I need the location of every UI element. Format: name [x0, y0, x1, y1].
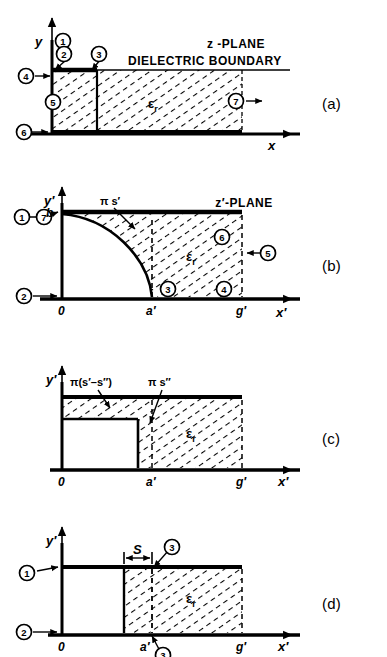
panel-letter-a: (a)	[322, 95, 341, 112]
segment-number-3-top: 3	[165, 540, 180, 555]
panel-d-drawing: 1 2 3 3 y′ x′ 0 a′ g′ S εr	[0, 495, 387, 657]
svg-text:3: 3	[160, 650, 165, 657]
label-right: π s″	[148, 376, 172, 388]
segment-number-3-bottom: 3	[156, 648, 171, 657]
segment-number-5: 5	[261, 246, 276, 261]
tick-origin: 0	[58, 304, 65, 318]
segment-number-2: 2	[17, 625, 32, 640]
svg-text:2: 2	[21, 627, 26, 638]
svg-text:5: 5	[265, 248, 271, 259]
segment-number-1: 1	[20, 566, 35, 581]
panel-letter-c: (c)	[322, 430, 340, 447]
tick-a: a′	[146, 304, 157, 318]
svg-text:1: 1	[60, 36, 66, 47]
segment-number-5: 5	[46, 95, 61, 110]
y-axis-label: y	[34, 34, 43, 49]
y-axis-label: y′	[45, 533, 57, 548]
svg-text:1: 1	[24, 568, 30, 579]
x-axis-label: x′	[277, 639, 289, 654]
dielectric-region	[124, 567, 242, 633]
svg-text:6: 6	[219, 232, 224, 243]
label-left: π(s′–s″)	[70, 376, 112, 388]
panel-d: 1 2 3 3 y′ x′ 0 a′ g′ S εr (d)	[0, 495, 387, 657]
leader-3-top	[154, 551, 168, 567]
curve-label: π s′	[100, 195, 121, 207]
dimension-label-s: S	[133, 542, 142, 557]
tick-g: g′	[235, 304, 247, 318]
panel-letter-d: (d)	[322, 595, 341, 612]
tick-g: g′	[235, 475, 247, 489]
svg-text:4: 4	[23, 71, 29, 82]
svg-text:7: 7	[233, 96, 238, 107]
svg-text:3: 3	[169, 542, 174, 553]
svg-text:2: 2	[61, 49, 66, 60]
panel-letter-b: (b)	[322, 257, 341, 274]
segment-number-3: 3	[161, 282, 176, 297]
plane-label: z -PLANE	[207, 37, 265, 51]
plane-label: z′-PLANE	[215, 196, 273, 210]
segment-number-2: 2	[57, 47, 72, 62]
segment-number-4: 4	[19, 69, 34, 84]
tick-b: b	[46, 206, 53, 220]
tick-a: a′	[146, 475, 157, 489]
svg-text:3: 3	[165, 284, 170, 295]
panel-c-drawing: y′ x′ 0 a′ g′ π(s′–s″) π s″ εr	[0, 330, 387, 495]
y-axis-label: y′	[45, 372, 57, 387]
svg-text:3: 3	[96, 49, 101, 60]
tick-origin: 0	[58, 475, 65, 489]
svg-text:2: 2	[21, 291, 26, 302]
x-axis-label: x′	[277, 474, 289, 489]
x-axis-label: x′	[275, 305, 287, 320]
svg-text:4: 4	[221, 284, 227, 295]
segment-number-2: 2	[17, 289, 32, 304]
svg-text:6: 6	[21, 127, 26, 138]
segment-number-4: 4	[217, 282, 232, 297]
panel-b-drawing: 1 7 2 3 4 5 6 y′ x′ 0 a′ g′	[0, 165, 387, 330]
segment-number-6: 6	[17, 125, 32, 140]
segment-number-7: 7	[229, 94, 244, 109]
dielectric-boundary-label: DIELECTRIC BOUNDARY	[128, 54, 282, 68]
segment-number-1: 1	[15, 210, 30, 225]
panel-a: 1 2 3 4 5 6 7 y x z -PLANE DIELECTR	[0, 0, 387, 165]
leader-1	[37, 567, 58, 571]
tick-origin: 0	[58, 640, 65, 654]
dielectric-region	[52, 70, 242, 132]
panel-c: y′ x′ 0 a′ g′ π(s′–s″) π s″ εr (c)	[0, 330, 387, 495]
tick-g: g′	[235, 640, 247, 654]
segment-number-3: 3	[92, 47, 107, 62]
segment-number-6: 6	[215, 230, 230, 245]
panel-b: 1 7 2 3 4 5 6 y′ x′ 0 a′ g′	[0, 165, 387, 330]
panel-a-drawing: 1 2 3 4 5 6 7 y x z -PLANE DIELECTR	[0, 0, 387, 165]
x-axis-label: x	[267, 138, 276, 153]
tick-a: a′	[140, 640, 151, 654]
svg-text:1: 1	[19, 212, 25, 223]
svg-text:5: 5	[50, 97, 56, 108]
